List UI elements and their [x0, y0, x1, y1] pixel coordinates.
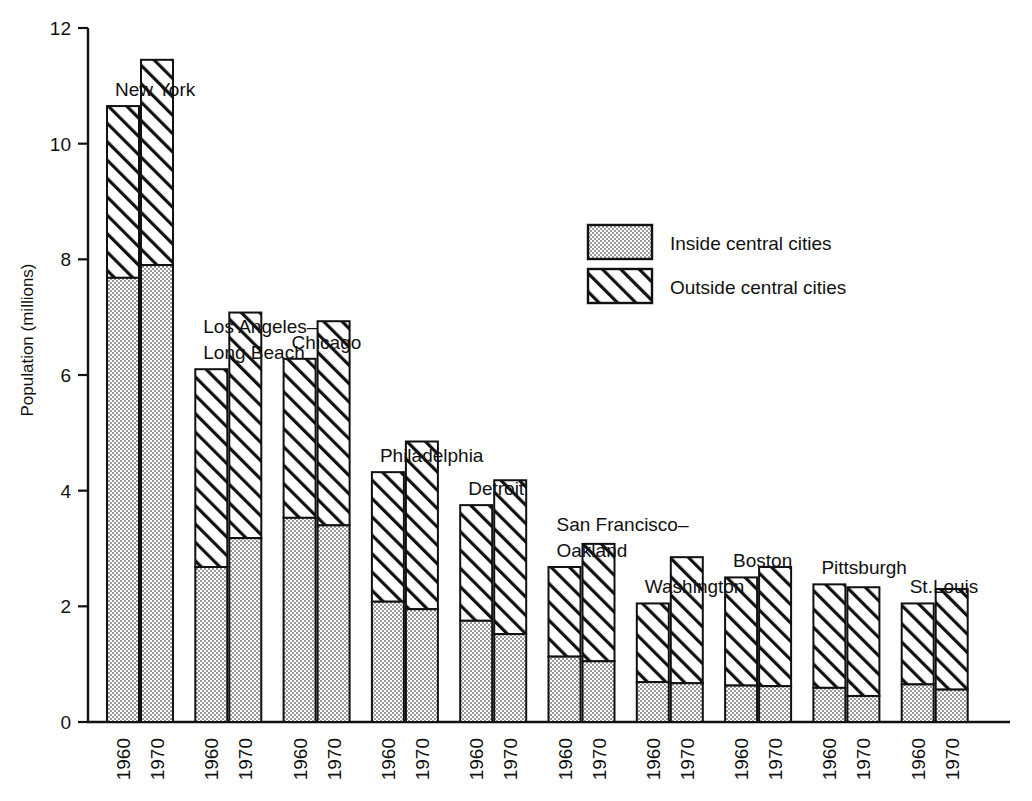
- x-axis-year-label: 1970: [412, 738, 433, 780]
- y-axis-tick-label: 6: [60, 365, 71, 386]
- chart-canvas: 024681012Population (millions) New YorkL…: [0, 0, 1032, 801]
- y-axis-tick-label: 8: [60, 249, 71, 270]
- x-axis-year-label: 1960: [466, 738, 487, 780]
- year-labels: 1960197019601970196019701960197019601970…: [113, 738, 963, 780]
- bar-segment-inside-central-cities: [813, 688, 845, 722]
- x-axis-year-label: 1960: [643, 738, 664, 780]
- bar-segment-inside-central-cities: [372, 602, 404, 722]
- x-axis-year-label: 1960: [201, 738, 222, 780]
- city-label: San Francisco–: [557, 514, 689, 535]
- bar-segment-inside-central-cities: [902, 684, 934, 722]
- city-label: Washington: [645, 576, 745, 597]
- bars-layer: [107, 60, 968, 722]
- y-axis-tick-label: 2: [60, 596, 71, 617]
- x-axis-year-label: 1970: [853, 738, 874, 780]
- bar-segment-inside-central-cities: [759, 686, 791, 722]
- bar-segment-inside-central-cities: [460, 621, 492, 722]
- bar-segment-outside-central-cities: [195, 369, 227, 567]
- legend-label: Inside central cities: [670, 233, 832, 254]
- y-axis-tick-label: 12: [50, 18, 71, 39]
- bar-segment-outside-central-cities: [549, 567, 581, 657]
- city-label: Detroit: [468, 478, 525, 499]
- bar-segment-outside-central-cities: [813, 584, 845, 688]
- bar-group: [549, 544, 615, 722]
- bar-segment-outside-central-cities: [406, 442, 438, 610]
- bar-segment-inside-central-cities: [847, 696, 879, 722]
- city-label: New York: [115, 79, 196, 100]
- x-axis-year-label: 1960: [731, 738, 752, 780]
- bar-segment-inside-central-cities: [284, 518, 316, 722]
- city-label: Pittsburgh: [821, 557, 907, 578]
- x-axis-year-label: 1970: [677, 738, 698, 780]
- legend: Inside central citiesOutside central cit…: [588, 225, 846, 303]
- city-label: Philadelphia: [380, 445, 484, 466]
- y-axis-tick-label: 4: [60, 481, 71, 502]
- bar-segment-inside-central-cities: [318, 525, 350, 722]
- bar-segment-outside-central-cities: [372, 472, 404, 602]
- x-axis-year-label: 1960: [378, 738, 399, 780]
- x-axis-year-label: 1960: [908, 738, 929, 780]
- city-label: Chicago: [292, 332, 362, 353]
- y-axis-title: Population (millions): [18, 263, 37, 416]
- bar-segment-outside-central-cities: [107, 106, 139, 278]
- x-axis-year-label: 1960: [113, 738, 134, 780]
- bar-segment-inside-central-cities: [936, 690, 968, 722]
- bar-group: [107, 60, 173, 722]
- bar-group: [195, 313, 261, 722]
- bar-segment-outside-central-cities: [460, 505, 492, 621]
- x-axis-year-label: 1960: [555, 738, 576, 780]
- bar-segment-outside-central-cities: [936, 589, 968, 690]
- bar-segment-inside-central-cities: [725, 686, 757, 722]
- bar-segment-outside-central-cities: [494, 480, 526, 634]
- bar-segment-outside-central-cities: [284, 359, 316, 518]
- bar-group: [813, 584, 879, 722]
- population-bar-chart: 024681012Population (millions) New YorkL…: [0, 0, 1032, 801]
- x-axis-year-label: 1960: [819, 738, 840, 780]
- x-axis-year-label: 1960: [290, 738, 311, 780]
- bar-segment-outside-central-cities: [759, 567, 791, 686]
- bar-segment-inside-central-cities: [107, 278, 139, 722]
- city-label: Oakland: [557, 540, 628, 561]
- legend-swatch-stipple: [588, 225, 652, 259]
- x-axis-year-label: 1970: [147, 738, 168, 780]
- x-axis-year-label: 1970: [235, 738, 256, 780]
- city-label: Long Beach: [203, 342, 304, 363]
- bar-segment-inside-central-cities: [637, 682, 669, 722]
- x-axis-year-label: 1970: [942, 738, 963, 780]
- bar-segment-outside-central-cities: [583, 544, 615, 661]
- bar-segment-inside-central-cities: [494, 634, 526, 722]
- bar-group: [372, 442, 438, 722]
- x-axis-year-label: 1970: [589, 738, 610, 780]
- x-axis-year-label: 1970: [500, 738, 521, 780]
- bar-segment-inside-central-cities: [583, 661, 615, 722]
- bar-segment-inside-central-cities: [671, 683, 703, 722]
- bar-segment-inside-central-cities: [549, 657, 581, 722]
- bar-segment-inside-central-cities: [229, 538, 261, 722]
- x-axis-year-label: 1970: [324, 738, 345, 780]
- bar-segment-outside-central-cities: [902, 603, 934, 684]
- bar-segment-outside-central-cities: [847, 587, 879, 696]
- bar-group: [284, 321, 350, 722]
- legend-label: Outside central cities: [670, 277, 846, 298]
- y-axis-tick-label: 0: [60, 712, 71, 733]
- city-label: Boston: [733, 550, 792, 571]
- bar-segment-outside-central-cities: [637, 603, 669, 682]
- bar-group: [460, 480, 526, 722]
- bar-segment-inside-central-cities: [195, 567, 227, 722]
- city-label: St.Louis: [910, 576, 979, 597]
- x-axis-year-label: 1970: [765, 738, 786, 780]
- bar-segment-inside-central-cities: [141, 265, 173, 722]
- y-axis-tick-label: 10: [50, 134, 71, 155]
- bar-group: [902, 589, 968, 722]
- legend-swatch-diagonal-hatch: [588, 269, 652, 303]
- bar-segment-inside-central-cities: [406, 609, 438, 722]
